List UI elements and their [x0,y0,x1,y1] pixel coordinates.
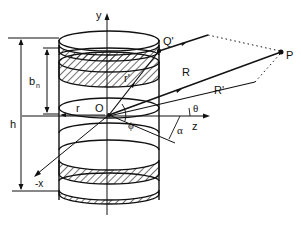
z-axis-label: z [192,120,198,132]
lower-wide-hatched-ring [59,160,159,184]
r-prime-label: r' [124,72,130,84]
field-point-p [279,50,284,55]
bn-subscript: n [36,82,40,89]
h-label: h [10,118,16,130]
neg-x-axis-label: -x [35,178,43,189]
r-prime-to-p-dotted [255,54,280,82]
theta-label: θ [193,102,198,114]
h-arrow-bottom [19,184,24,190]
theta-arc [189,108,190,116]
neg-x-axis [37,114,110,174]
q-prime-label: Q' [163,35,174,47]
radius-label: r [76,102,80,114]
y-axis-label: y [96,9,102,21]
r-distance-label: R [182,66,190,78]
bottom-thin-hatched-ring [59,190,159,204]
phi-line [109,115,175,143]
alpha-label: α [177,124,183,136]
bn-arrow-top [45,49,50,55]
q-prime-to-p-dotted [208,35,280,51]
middle-ellipse-lower [59,123,159,133]
field-point-label: P [286,49,293,61]
bn-label: b [29,75,35,87]
bn-arrow-bottom [45,107,50,113]
q-prime-ray-arrowhead [181,42,187,46]
lower-ring-top-edge [59,140,159,150]
y-axis-arrowhead [105,13,110,20]
origin-label: O [95,102,104,114]
z-axis-arrowhead [203,114,210,119]
coil-diagram: y z -x O r r' Q' R P R' θ ϕ α h [0,0,301,225]
r-prime-distance-label: R' [214,84,224,96]
phi-label: ϕ [128,119,134,131]
h-arrow-top [19,39,24,45]
